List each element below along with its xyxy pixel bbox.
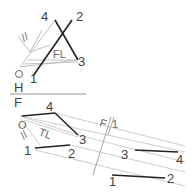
front-true-length-label: TL [37, 126, 53, 142]
top-origin-mark [16, 71, 23, 78]
fold-label-f: F [14, 95, 22, 110]
front-view-labels: 4 3 2 1 O TL // [16, 99, 86, 161]
aux-view-labels: 3 4 1 2 [109, 147, 183, 189]
top-point-4: 4 [41, 9, 48, 24]
aux-point-1: 1 [109, 174, 116, 189]
top-parallel-mark: // [19, 30, 31, 44]
fold-label-f-aux: F [98, 116, 108, 129]
fold-label-h: H [14, 80, 23, 95]
top-point-2: 2 [76, 9, 83, 24]
top-point-3: 3 [78, 54, 85, 69]
fold-label-1-aux: 1 [112, 118, 118, 130]
front-point-2: 2 [68, 146, 75, 161]
aux-point-4: 4 [176, 152, 183, 167]
aux-point-2: 2 [167, 171, 174, 186]
aux-point-3: 3 [121, 147, 128, 162]
top-true-length-label: FL [53, 48, 66, 60]
front-point-1: 1 [24, 143, 31, 158]
projection-diagram: 4 2 3 1 FL // H F 4 3 2 1 O TL // F 1 [0, 0, 195, 194]
top-point-1: 1 [30, 71, 37, 86]
front-point-4: 4 [46, 99, 53, 114]
front-point-3: 3 [79, 132, 86, 147]
